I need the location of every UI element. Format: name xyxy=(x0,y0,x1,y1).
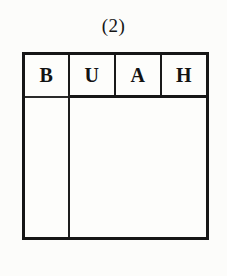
body-column-divider xyxy=(68,95,70,237)
table-header-cell-h: H xyxy=(162,55,206,95)
figure-caption: (2) xyxy=(0,14,227,38)
table-body-area xyxy=(25,98,206,237)
header-divider-b-u xyxy=(68,55,70,95)
table-header-cell-u: U xyxy=(70,55,114,95)
header-divider-u-a xyxy=(114,55,116,95)
table-header-cell-b: B xyxy=(25,55,68,95)
header-divider-a-h xyxy=(160,55,162,95)
table-header-row: B U A H xyxy=(25,55,206,97)
figure-root: (2) B U A H xyxy=(0,0,227,276)
table-header-cell-a: A xyxy=(116,55,160,95)
table-frame: B U A H xyxy=(22,52,209,240)
